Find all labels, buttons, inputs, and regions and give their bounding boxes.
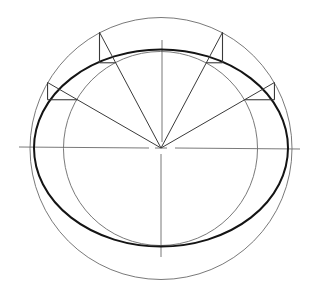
major-axis-right	[175, 148, 300, 149]
construction-geometry	[19, 18, 300, 280]
ellipse-construction-diagram	[0, 0, 316, 295]
major-axis-left	[19, 147, 149, 148]
